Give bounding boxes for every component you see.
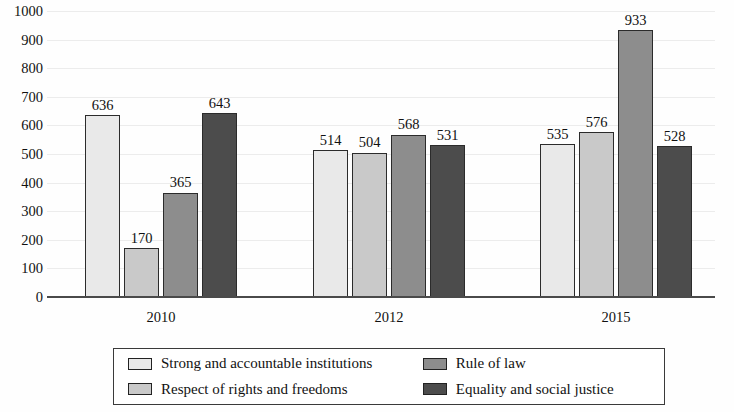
bar[interactable]: 528 — [657, 146, 692, 297]
legend-swatch-icon — [423, 358, 447, 370]
y-axis-tick-label: 800 — [1, 61, 43, 76]
y-axis-tick-label: 600 — [1, 118, 43, 133]
y-axis-tick-label: 400 — [1, 175, 43, 190]
bar[interactable]: 170 — [124, 248, 159, 297]
bar[interactable]: 365 — [163, 193, 198, 297]
legend-label: Strong and accountable institutions — [161, 356, 372, 371]
plot-area: 636170365643514504568531535576933528 — [47, 11, 715, 297]
x-axis-category-label: 2010 — [147, 310, 176, 325]
bar-chart: 01002003004005006007008009001000 6361703… — [0, 0, 734, 412]
y-axis-tick-label: 500 — [1, 147, 43, 162]
bar-group: 514504568531 — [313, 11, 469, 297]
bar-value-label: 643 — [209, 96, 231, 111]
bar-value-label: 170 — [131, 231, 153, 246]
bar-value-label: 531 — [437, 128, 459, 143]
bar[interactable]: 636 — [85, 115, 120, 297]
y-axis-tick-label: 1000 — [1, 4, 43, 19]
bar[interactable]: 531 — [430, 145, 465, 297]
legend-label: Equality and social justice — [456, 382, 614, 397]
bar-value-label: 365 — [170, 175, 192, 190]
y-axis-tick-label: 0 — [1, 290, 43, 305]
bar[interactable]: 643 — [202, 113, 237, 297]
legend-swatch-icon — [128, 358, 152, 370]
y-axis-tick-label: 300 — [1, 204, 43, 219]
chart-legend: Strong and accountable institutionsRule … — [113, 348, 665, 405]
legend-item[interactable]: Equality and social justice — [423, 382, 664, 397]
legend-items: Strong and accountable institutionsRule … — [114, 349, 664, 404]
bar-value-label: 933 — [625, 13, 647, 28]
bar-value-label: 514 — [320, 133, 342, 148]
legend-item[interactable]: Respect of rights and freedoms — [128, 382, 423, 397]
bar-value-label: 528 — [664, 129, 686, 144]
legend-item[interactable]: Rule of law — [423, 356, 664, 371]
y-axis-tick-label: 100 — [1, 261, 43, 276]
bar[interactable]: 933 — [618, 30, 653, 297]
x-axis-category-label: 2015 — [602, 310, 631, 325]
bar[interactable]: 504 — [352, 153, 387, 297]
legend-swatch-icon — [423, 383, 447, 395]
x-axis-line — [47, 296, 715, 298]
legend-label: Rule of law — [456, 356, 526, 371]
bar[interactable]: 576 — [579, 132, 614, 297]
legend-item[interactable]: Strong and accountable institutions — [128, 356, 423, 371]
bar-value-label: 535 — [547, 127, 569, 142]
bar[interactable]: 535 — [540, 144, 575, 297]
bar-group: 535576933528 — [540, 11, 696, 297]
bar-value-label: 636 — [92, 98, 114, 113]
y-axis-tick-label: 900 — [1, 32, 43, 47]
y-axis: 01002003004005006007008009001000 — [0, 11, 43, 297]
bar-value-label: 576 — [586, 115, 608, 130]
bar-value-label: 568 — [398, 117, 420, 132]
x-axis-category-label: 2012 — [375, 310, 404, 325]
y-axis-tick-label: 700 — [1, 90, 43, 105]
bar[interactable]: 568 — [391, 135, 426, 297]
legend-swatch-icon — [128, 383, 152, 395]
y-axis-tick-label: 200 — [1, 233, 43, 248]
legend-label: Respect of rights and freedoms — [161, 382, 348, 397]
bar-group: 636170365643 — [85, 11, 241, 297]
bar[interactable]: 514 — [313, 150, 348, 297]
bar-value-label: 504 — [359, 135, 381, 150]
